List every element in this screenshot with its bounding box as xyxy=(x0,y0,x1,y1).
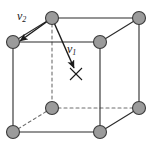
atom-bottom-back-left xyxy=(46,102,59,115)
atom-top-front-right xyxy=(94,36,107,49)
markers-group xyxy=(70,68,82,80)
vector-label-v2-subscript: 2 xyxy=(22,15,26,24)
atom-bottom-back-right xyxy=(133,102,146,115)
cubic-lattice-figure: v2 v1 xyxy=(0,0,159,146)
hidden-edges-group xyxy=(13,18,139,132)
atom-top-front-left xyxy=(7,36,20,49)
solid-edges-group xyxy=(13,18,139,132)
atom-bottom-front-left xyxy=(7,126,20,139)
vectors-group xyxy=(20,18,74,68)
vector-label-v1-subscript: 1 xyxy=(72,48,76,57)
vector-label-v1: v1 xyxy=(67,43,76,55)
atom-top-back-left xyxy=(46,12,59,25)
atom-top-back-right xyxy=(133,12,146,25)
vector-label-v2: v2 xyxy=(17,10,26,22)
atom-bottom-front-right xyxy=(94,126,107,139)
atoms-group xyxy=(7,12,146,139)
x-mark-target xyxy=(70,68,82,80)
